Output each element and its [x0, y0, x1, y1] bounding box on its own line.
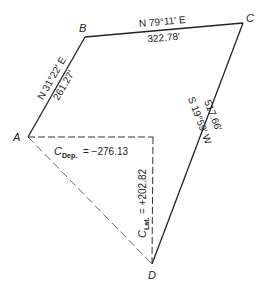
- svg-text:Dep.: Dep.: [62, 152, 77, 160]
- course-bc-distance: 322.78′: [147, 31, 180, 45]
- latitude-dashed-line: [152, 137, 153, 264]
- point-d-label: D: [148, 269, 156, 281]
- point-b-label: B: [79, 22, 86, 34]
- point-c-label: C: [246, 12, 254, 24]
- course-cd-line: [152, 23, 243, 264]
- svg-text:= −276.13: = −276.13: [83, 146, 128, 157]
- svg-text:C: C: [54, 145, 62, 157]
- svg-text:C: C: [136, 230, 148, 238]
- svg-text:Lat.: Lat.: [143, 218, 150, 231]
- departure-closure-label: C Dep. = −276.13: [54, 145, 128, 160]
- latitude-closure-label: C Lat. = +202.82: [136, 169, 150, 238]
- svg-text:= +202.82: = +202.82: [137, 169, 148, 214]
- traverse-diagram: A B C D N 31°22′ E 261.27′ N 79°11′ E 32…: [0, 0, 265, 285]
- course-bc-bearing: N 79°11′ E: [138, 14, 186, 29]
- point-a-label: A: [12, 131, 20, 143]
